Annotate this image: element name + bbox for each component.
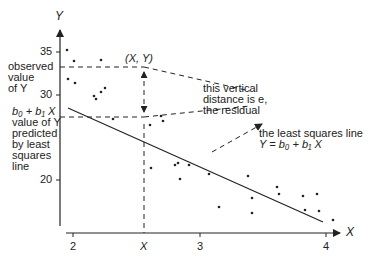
y-axis-label: Y: [55, 10, 63, 22]
x-tick-3: 3: [197, 240, 203, 252]
observed-label-3: of Y: [8, 82, 27, 94]
least-squares-line: [68, 108, 323, 222]
x-axis-label: X: [346, 226, 354, 238]
x-tick-X: X: [140, 240, 147, 252]
y-tick-20: 20: [40, 173, 52, 185]
residual-label-3: the residual: [203, 104, 260, 116]
lsl-label-2: Y = b₀ + b₁ X: [259, 138, 322, 150]
x-tick-4: 4: [323, 240, 329, 252]
point-label: (X, Y): [125, 52, 153, 64]
x-axis: [66, 233, 340, 237]
predicted-label-5: line: [12, 160, 29, 172]
y-tick-30: 30: [40, 88, 52, 100]
x-tick-2: 2: [70, 240, 76, 252]
y-tick-35: 35: [40, 45, 52, 57]
